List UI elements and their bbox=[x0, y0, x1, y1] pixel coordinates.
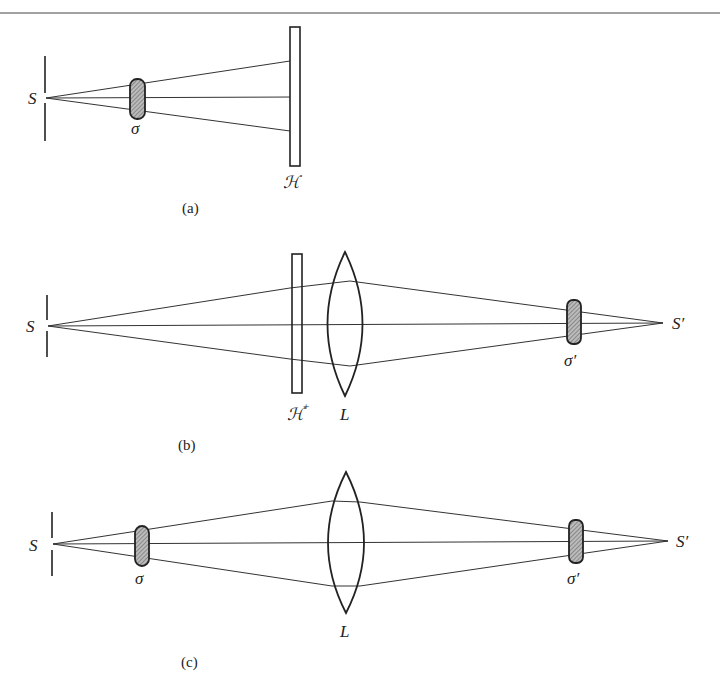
lens-label: L bbox=[339, 622, 349, 641]
plate-label: ℋ bbox=[283, 173, 303, 192]
sigma-label: σ bbox=[135, 569, 144, 588]
optics-diagram: S σ ℋ (a) S ℋ + L σ′ S′ (b) bbox=[0, 0, 720, 698]
hologram-plate bbox=[290, 27, 300, 166]
sigma-prime-label: σ′ bbox=[564, 351, 576, 370]
source-label: S bbox=[29, 536, 38, 555]
panel-c: S σ L σ′ S′ (c) bbox=[29, 472, 689, 671]
panel-b: S ℋ + L σ′ S′ (b) bbox=[26, 252, 685, 454]
image-label: S′ bbox=[676, 532, 689, 551]
image-label: S′ bbox=[672, 314, 685, 333]
sigma-label: σ bbox=[131, 119, 140, 138]
source-label: S bbox=[26, 317, 35, 336]
aperture-sigma-prime bbox=[567, 300, 581, 344]
panel-a: S σ ℋ (a) bbox=[28, 27, 303, 217]
caption-c: (c) bbox=[181, 654, 198, 671]
source-label: S bbox=[28, 89, 37, 108]
aperture-sigma bbox=[135, 526, 149, 566]
lens-label: L bbox=[339, 405, 349, 424]
sigma-prime-label: σ′ bbox=[567, 569, 579, 588]
caption-b: (b) bbox=[178, 437, 196, 454]
plate-superscript: + bbox=[303, 400, 309, 412]
aperture-sigma-prime bbox=[569, 520, 583, 563]
aperture-sigma bbox=[130, 79, 145, 119]
hologram-plate bbox=[292, 254, 302, 393]
caption-a: (a) bbox=[182, 200, 199, 217]
